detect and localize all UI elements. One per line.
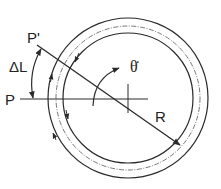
rotating-ring-diagram: P' P ΔL θ̇ R [0, 0, 221, 189]
label-delta-l: ΔL [9, 58, 27, 75]
line-p-prime [37, 45, 180, 145]
label-p: P [5, 91, 15, 108]
label-p-prime: P' [27, 29, 40, 46]
outer-ring-arrow-lower [53, 133, 56, 140]
label-radius: R [155, 108, 166, 125]
delta-l-arc-arrow [32, 49, 41, 98]
label-theta-dot: θ̇ [130, 58, 139, 75]
inner-ring-arrow-upper [75, 53, 79, 62]
